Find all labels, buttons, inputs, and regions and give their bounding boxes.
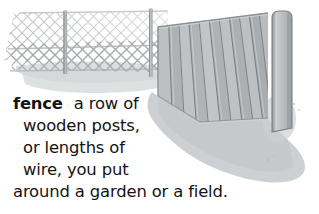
chain-link-mesh (4, 11, 168, 72)
chain-link-post-left (63, 10, 67, 74)
definition-line-3: or lengths of (23, 140, 125, 156)
definition-line-1: fencea row of (13, 96, 139, 112)
definition-line-5: around a garden or a field. (13, 184, 228, 200)
definition-text-block: fencea row of wooden posts, or lengths o… (0, 92, 319, 214)
chain-link-post-right (149, 8, 153, 77)
definition-line-2: wooden posts, (23, 118, 140, 134)
dictionary-entry-page: fencea row of wooden posts, or lengths o… (0, 0, 319, 214)
headword: fence (13, 94, 63, 113)
definition-line-4: wire, you put (23, 162, 128, 178)
definition-line-1-text: a row of (74, 94, 139, 113)
